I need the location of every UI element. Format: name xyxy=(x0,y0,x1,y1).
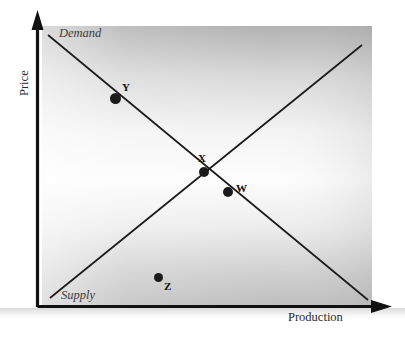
data-point-label-z: Z xyxy=(164,281,171,292)
y-axis-title: Price xyxy=(18,70,31,96)
data-point-y xyxy=(110,93,121,104)
data-point-label-x: X xyxy=(198,153,206,164)
y-axis xyxy=(32,10,44,307)
scan-shadow xyxy=(0,308,405,322)
data-point-label-w: W xyxy=(236,183,247,194)
data-point-label-y: Y xyxy=(122,82,130,93)
data-point-x xyxy=(199,167,209,177)
data-point-w xyxy=(223,187,233,197)
x-axis-title: Production xyxy=(288,311,343,324)
demand-curve-label: Demand xyxy=(59,27,101,40)
supply-curve-label: Supply xyxy=(61,289,95,302)
y-axis-arrowhead xyxy=(32,10,44,30)
supply-demand-figure: Price Production Demand Supply Y X W Z xyxy=(0,0,405,343)
data-point-z xyxy=(154,273,163,282)
